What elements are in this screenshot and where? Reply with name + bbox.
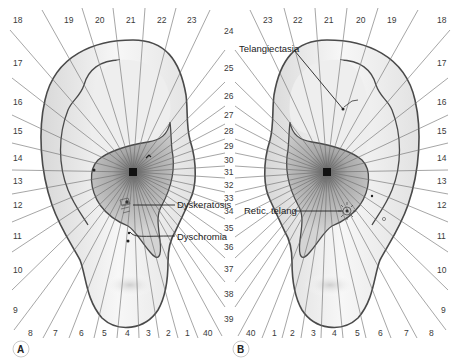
ear-a-dyschromia-dot [127,240,130,243]
zone-numbers-center: 24 25 26 27 28 29 30 31 32 33 34 35 36 3… [224,26,234,324]
zone-a-2: 2 [166,328,171,338]
zone-b-2: 2 [290,328,295,338]
zone-b-1: 1 [272,328,277,338]
zone-b-21: 21 [324,15,334,25]
zone-a-9: 9 [13,305,18,315]
zone-a-21: 21 [126,15,136,25]
zone-37: 37 [224,264,234,274]
zone-b-15: 15 [437,126,447,136]
zone-numbers-a-left: 17 16 15 14 13 12 11 10 9 [13,58,23,315]
zone-28: 28 [224,126,234,136]
zone-b-11: 11 [437,231,446,241]
ear-b-lesion-dot [371,195,373,197]
zone-36: 36 [224,242,234,252]
telangiectasia-label: Telangiectasia [239,43,300,54]
zone-numbers-b-right: 17 16 15 14 13 12 11 10 9 [437,58,447,315]
zone-a-14: 14 [13,153,23,163]
ear-b-center-point [323,168,331,176]
zone-b-5: 5 [355,328,360,338]
zone-a-4: 4 [125,328,130,338]
zone-numbers-a-top: 18 19 20 21 22 23 [13,15,197,25]
zone-32: 32 [224,180,234,190]
zone-b-3: 3 [311,328,316,338]
zone-24: 24 [224,26,234,36]
zone-a-15: 15 [13,126,23,136]
zone-a-11: 11 [13,231,22,241]
zone-a-18: 18 [13,15,23,25]
zone-numbers-a-bottom: 8 7 6 5 4 3 2 1 40 [28,328,213,338]
zone-b-12: 12 [437,200,447,210]
zone-26: 26 [224,91,234,101]
zone-25: 25 [224,63,234,73]
zone-b-8: 8 [429,328,434,338]
zone-b-4: 4 [332,328,337,338]
zone-b-7: 7 [404,328,409,338]
svg-text:A: A [17,344,24,355]
zone-b-17: 17 [437,58,447,68]
dyschromia-label: Dyschromia [177,231,228,242]
zone-b-16: 16 [437,97,447,107]
zone-38: 38 [224,289,234,299]
retic-telang-label: Retic. telang [244,205,297,216]
zone-a-13: 13 [13,176,23,186]
ear-a: Dyskeratosis Dyschromia [10,8,232,338]
zone-numbers-b-top: 23 22 21 20 19 18 [263,15,447,25]
zone-a-7: 7 [53,328,58,338]
zone-b-22: 22 [293,15,303,25]
zone-b-10: 10 [437,265,447,275]
zone-29: 29 [224,141,234,151]
zone-b-9: 9 [441,305,446,315]
zone-a-1: 1 [185,328,190,338]
zone-a-12: 12 [13,200,23,210]
ear-a-lesion-dot [93,169,96,172]
zone-b-20: 20 [356,15,366,25]
zone-39: 39 [224,314,234,324]
zone-35: 35 [224,223,234,233]
zone-a-19: 19 [64,15,74,25]
zone-33: 33 [224,193,234,203]
zone-a-3: 3 [146,328,151,338]
zone-b-40: 40 [246,328,256,338]
panel-label-a: A [13,341,29,357]
zone-a-20: 20 [95,15,105,25]
zone-a-10: 10 [13,265,23,275]
ear-a-center-point [129,168,137,176]
auricular-zone-diagram: Dyskeratosis Dyschromia [0,0,460,364]
zone-b-6: 6 [378,328,383,338]
zone-27: 27 [224,110,234,120]
zone-a-6: 6 [79,328,84,338]
zone-a-17: 17 [13,58,23,68]
zone-a-22: 22 [157,15,167,25]
panel-label-b: B [233,341,249,357]
zone-30: 30 [224,155,234,165]
zone-numbers-b-bottom: 40 1 2 3 4 5 6 7 8 [246,328,434,338]
zone-34: 34 [224,206,234,216]
zone-b-19: 19 [387,15,397,25]
zone-a-8: 8 [28,328,33,338]
zone-b-14: 14 [437,153,447,163]
zone-b-13: 13 [437,176,447,186]
zone-a-5: 5 [102,328,107,338]
zone-b-23: 23 [263,15,273,25]
ear-b: Telangiectasia Retic. telang [235,8,450,338]
zone-b-18: 18 [437,15,447,25]
svg-text:B: B [237,344,244,355]
zone-a-16: 16 [13,97,23,107]
zone-31: 31 [224,167,234,177]
zone-a-40: 40 [203,328,213,338]
zone-a-23: 23 [187,15,197,25]
